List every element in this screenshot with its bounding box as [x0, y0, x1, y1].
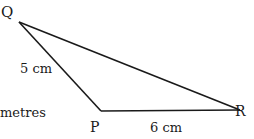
triangle-diagram: Q P R 5 cm 6 cm metres — [0, 0, 254, 139]
partial-text: metres — [0, 105, 46, 120]
edge-qr — [19, 22, 240, 110]
edge-pr — [101, 110, 240, 111]
edge-label-pr: 6 cm — [150, 120, 182, 135]
vertex-label-p: P — [90, 119, 99, 135]
vertex-label-q: Q — [1, 3, 13, 21]
vertex-label-r: R — [235, 103, 246, 119]
edge-label-qp: 5 cm — [20, 61, 52, 76]
